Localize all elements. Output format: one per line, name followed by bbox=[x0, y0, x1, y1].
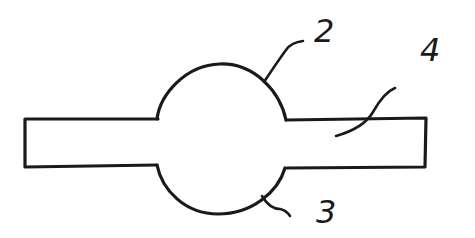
label-4: 4 bbox=[420, 34, 440, 66]
tube-left-outline bbox=[25, 119, 158, 167]
leader-line-4 bbox=[336, 88, 395, 136]
tube-right-outline bbox=[286, 118, 426, 168]
lower-bulge-outline bbox=[157, 165, 285, 214]
upper-bulge-outline bbox=[157, 64, 286, 120]
label-2: 2 bbox=[314, 15, 334, 47]
leader-line-2 bbox=[264, 41, 303, 82]
leader-line-3 bbox=[262, 196, 290, 216]
diagram-canvas bbox=[0, 0, 475, 238]
label-3: 3 bbox=[316, 196, 336, 228]
